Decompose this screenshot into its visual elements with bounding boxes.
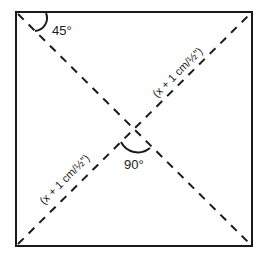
corner-angle-arc [35, 13, 47, 31]
square-diagonals-diagram: 45° 90° (x + 1 cm/½") (x + 1 cm/½") [0, 0, 264, 259]
center-angle-arc [121, 142, 150, 152]
center-angle-label: 90° [124, 157, 144, 172]
corner-angle-label: 45° [52, 23, 72, 38]
diagonal-length-label-upper: (x + 1 cm/½") [150, 45, 205, 100]
